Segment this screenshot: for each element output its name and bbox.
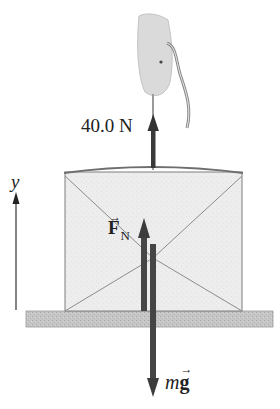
free-body-diagram: 40.0 N y →FN m→g bbox=[0, 0, 280, 409]
vector-arrow-icon: → bbox=[109, 211, 121, 223]
hand-icon bbox=[138, 14, 189, 170]
vector-arrow-icon: → bbox=[180, 363, 192, 375]
y-axis-label: y bbox=[11, 172, 19, 191]
table-surface bbox=[26, 311, 273, 327]
y-axis-arrow bbox=[13, 192, 20, 310]
weight-label: m→g bbox=[165, 372, 189, 392]
normal-force-subscript: N bbox=[121, 228, 130, 243]
weight-mass-symbol: m bbox=[165, 371, 179, 393]
diagram-canvas bbox=[0, 0, 280, 409]
normal-force-label: →FN bbox=[108, 218, 129, 237]
tension-label: 40.0 N bbox=[81, 116, 133, 135]
tension-arrow bbox=[148, 114, 159, 168]
